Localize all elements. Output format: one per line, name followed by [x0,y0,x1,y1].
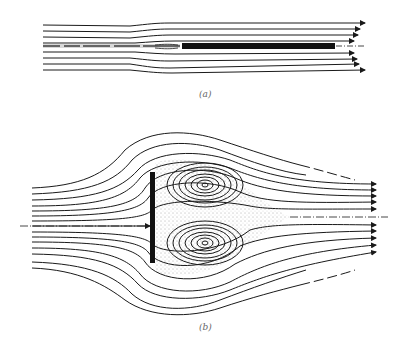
flow-diagram [0,0,411,340]
flat-plate-parallel [182,43,335,49]
flat-plate-normal [150,172,155,263]
panel-b-diagram [20,133,388,315]
caption-b: (b) [199,322,212,332]
caption-a: (a) [199,89,211,99]
